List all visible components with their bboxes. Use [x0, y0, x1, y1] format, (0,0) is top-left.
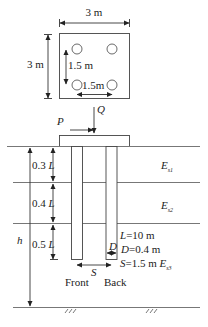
layer-1-modulus: Es1: [160, 159, 173, 173]
plan-horizontal-spacing: 1.5m: [77, 79, 112, 95]
spacing-symbol: S: [91, 266, 97, 278]
layer-1-dimension: 0.3 L: [32, 148, 55, 181]
diameter-dimension: D: [107, 240, 117, 253]
loads: Q P: [56, 103, 105, 133]
layer-1-thickness: 0.3: [32, 159, 46, 171]
layer-2-dimension: 0.4 L: [32, 184, 55, 222]
pile-circle-back-bottom: [107, 80, 117, 90]
pile-circle-back-top: [107, 44, 117, 54]
front-pile: [72, 147, 83, 260]
param-spacing: S=1.5 m Es3: [120, 257, 172, 271]
depth-dimension: h: [17, 148, 30, 306]
vertical-spacing-label: 1.5 m: [68, 59, 94, 71]
layer-3-thickness: 0.5: [32, 238, 46, 250]
plan-width-dimension: 3 m: [60, 6, 130, 27]
vertical-load-label: Q: [97, 103, 105, 115]
plan-view: 3 m 3 m 1.5 m 1.5m: [27, 6, 130, 99]
layer-1-unit: L: [48, 159, 55, 171]
svg-text:0.5 L: 0.5 L: [32, 238, 55, 250]
svg-text:0.3 L: 0.3 L: [32, 159, 55, 171]
depth-label: h: [17, 234, 23, 246]
plan-width-label: 3 m: [86, 6, 103, 18]
pile-group-diagram: 3 m 3 m 1.5 m 1.5m Q P: [0, 0, 208, 327]
pile-cap: [60, 136, 130, 147]
elevation-view: h 0.3 L 0.4 L 0.5 L Es1 Es2 D S: [7, 136, 200, 314]
svg-text:0.4 L: 0.4 L: [32, 197, 55, 209]
horizontal-spacing-label: 1.5m: [82, 79, 105, 91]
layer-3-dimension: 0.5 L: [32, 225, 58, 260]
plan-height-label: 3 m: [27, 58, 44, 70]
layer-2-modulus: Es2: [160, 199, 173, 213]
horizontal-load-label: P: [56, 115, 64, 127]
layer-2-thickness: 0.4: [32, 197, 46, 209]
parameter-list: L=10 m D=0.4 m S=1.5 m Es3: [119, 229, 172, 271]
layer-2-unit: L: [48, 197, 55, 209]
fixed-base-hatch: [65, 309, 157, 313]
back-pile-label: Back: [104, 276, 127, 288]
param-diameter: D=0.4 m: [120, 243, 161, 255]
pile-circle-front-top: [72, 44, 82, 54]
diameter-symbol: D: [108, 240, 117, 252]
front-pile-label: Front: [65, 276, 89, 288]
layer-3-unit: L: [48, 238, 55, 250]
plan-height-dimension: 3 m: [27, 35, 52, 99]
param-length: L=10 m: [119, 229, 155, 241]
pile-circle-front-bottom: [72, 80, 82, 90]
